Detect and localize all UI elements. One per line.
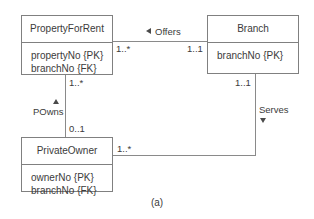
class-attributes-property-for-rent: propertyNo {PK} branchNo {FK} <box>22 43 112 81</box>
class-attributes-branch: branchNo {PK} <box>208 43 298 68</box>
class-box-private-owner[interactable]: PrivateOwner ownerNo {PK} branchNo {FK} <box>21 137 113 192</box>
class-name-branch: Branch <box>208 16 298 43</box>
figure-caption: (a) <box>0 197 314 208</box>
multiplicity-serves-branch-side: 1..1 <box>235 78 251 88</box>
association-label-powns: POwns <box>33 107 64 117</box>
attribute-branch-no-pk: branchNo {PK} <box>217 49 298 62</box>
serves-direction-triangle-icon <box>260 118 266 123</box>
attribute-property-no: propertyNo {PK} <box>31 49 112 62</box>
class-name-private-owner: PrivateOwner <box>22 138 112 165</box>
association-line-offers <box>113 41 207 42</box>
association-line-powns <box>65 75 66 137</box>
class-name-property-for-rent: PropertyForRent <box>22 16 112 43</box>
class-box-branch[interactable]: Branch branchNo {PK} <box>207 15 299 74</box>
offers-direction-triangle-icon <box>146 28 151 34</box>
multiplicity-offers-branch-side: 1..1 <box>187 44 203 54</box>
multiplicity-powns-property-side: 1..* <box>69 78 83 88</box>
multiplicity-serves-owner-side: 1..* <box>117 144 131 154</box>
attribute-branch-no-fk-owner: branchNo {FK} <box>31 184 112 197</box>
uml-class-diagram: PropertyForRent propertyNo {PK} branchNo… <box>0 0 314 219</box>
association-line-serves-horizontal <box>113 155 256 156</box>
multiplicity-powns-owner-side: 0..1 <box>69 124 85 134</box>
class-box-property-for-rent[interactable]: PropertyForRent propertyNo {PK} branchNo… <box>21 15 113 75</box>
attribute-branch-no-fk: branchNo {FK} <box>31 62 112 75</box>
association-line-serves-vertical <box>255 74 256 156</box>
attribute-owner-no: ownerNo {PK} <box>31 171 112 184</box>
multiplicity-offers-property-side: 1..* <box>116 44 130 54</box>
powns-direction-triangle-icon <box>53 99 59 104</box>
association-label-offers: Offers <box>155 27 181 37</box>
association-label-serves: Serves <box>259 105 289 115</box>
